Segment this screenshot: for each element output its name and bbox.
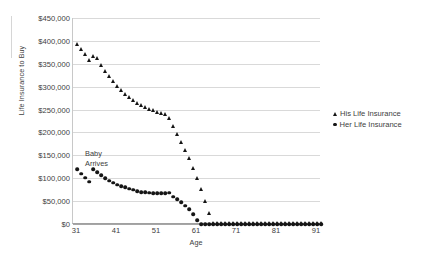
data-point bbox=[187, 156, 191, 160]
plot-area: Baby Arrives bbox=[72, 18, 320, 224]
life-insurance-scatter-chart: Life Insurance to Buy $0$50,000$100,000$… bbox=[0, 0, 426, 267]
chart-legend: His Life Insurance Her Life Insurance bbox=[333, 108, 402, 130]
x-tick-label: 91 bbox=[312, 226, 320, 235]
data-point bbox=[75, 42, 79, 46]
gridline bbox=[73, 110, 320, 111]
data-point bbox=[175, 197, 179, 201]
y-tick-label: $400,000 bbox=[38, 36, 70, 45]
data-point bbox=[99, 63, 103, 67]
data-point bbox=[87, 180, 91, 184]
x-tick-label: 61 bbox=[192, 226, 200, 235]
data-point bbox=[167, 191, 171, 195]
data-point bbox=[171, 124, 175, 128]
data-point bbox=[103, 69, 107, 73]
x-tick-label: 41 bbox=[112, 226, 120, 235]
gridline bbox=[73, 18, 320, 19]
data-point bbox=[75, 167, 79, 171]
y-tick-label: $450,000 bbox=[38, 14, 70, 23]
data-point bbox=[187, 208, 191, 212]
y-tick-label: $200,000 bbox=[38, 128, 70, 137]
gridline bbox=[73, 64, 320, 65]
data-point bbox=[191, 212, 195, 216]
y-tick-label: $0 bbox=[62, 220, 70, 229]
x-tick-label: 71 bbox=[232, 226, 240, 235]
data-point bbox=[107, 74, 111, 78]
gridline bbox=[73, 155, 320, 156]
circle-marker-icon bbox=[333, 123, 337, 127]
triangle-marker-icon bbox=[333, 112, 337, 116]
x-tick-label: 51 bbox=[152, 226, 160, 235]
gridline bbox=[73, 41, 320, 42]
y-tick-label: $100,000 bbox=[38, 174, 70, 183]
gridline bbox=[73, 87, 320, 88]
data-point bbox=[83, 176, 87, 180]
data-point bbox=[171, 195, 175, 199]
gridline bbox=[73, 201, 320, 202]
y-tick-label: $300,000 bbox=[38, 82, 70, 91]
x-tick-label: 31 bbox=[72, 226, 80, 235]
legend-label: His Life Insurance bbox=[340, 109, 401, 118]
data-point bbox=[183, 204, 187, 208]
data-point bbox=[83, 52, 87, 56]
data-point bbox=[99, 174, 103, 178]
y-tick-label: $50,000 bbox=[43, 197, 70, 206]
legend-item-his: His Life Insurance bbox=[333, 108, 402, 119]
data-point bbox=[179, 201, 183, 205]
data-point bbox=[195, 176, 199, 180]
data-point bbox=[183, 148, 187, 152]
left-edge-rule bbox=[11, 16, 12, 58]
data-point bbox=[111, 79, 115, 83]
x-axis-title: Age bbox=[72, 238, 320, 247]
data-point bbox=[95, 170, 99, 174]
data-point bbox=[199, 187, 203, 191]
y-axis-tick-labels: $0$50,000$100,000$150,000$200,000$250,00… bbox=[18, 0, 70, 267]
legend-item-her: Her Life Insurance bbox=[333, 119, 402, 130]
data-point bbox=[95, 56, 99, 60]
data-point bbox=[195, 219, 199, 223]
data-point bbox=[79, 47, 83, 51]
data-point bbox=[203, 199, 207, 203]
y-tick-label: $150,000 bbox=[38, 151, 70, 160]
legend-label: Her Life Insurance bbox=[340, 120, 402, 129]
data-point bbox=[179, 140, 183, 144]
data-point bbox=[79, 172, 83, 176]
baby-arrives-annotation: Baby Arrives bbox=[85, 149, 108, 168]
y-tick-label: $250,000 bbox=[38, 105, 70, 114]
data-point bbox=[207, 211, 211, 215]
y-tick-label: $350,000 bbox=[38, 59, 70, 68]
data-point bbox=[167, 116, 171, 120]
gridline bbox=[73, 132, 320, 133]
data-point bbox=[191, 166, 195, 170]
data-point bbox=[175, 132, 179, 136]
x-tick-label: 81 bbox=[272, 226, 280, 235]
